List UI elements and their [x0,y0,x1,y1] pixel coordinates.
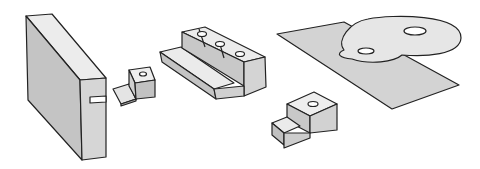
stepped-block-3-holes [160,27,266,99]
parts-illustration [0,0,480,169]
slotted-block [26,14,106,160]
small-step-block [272,92,337,148]
z-bracket [113,67,155,106]
plate-with-figure-eight [277,16,461,109]
illustration-canvas [0,0,480,169]
